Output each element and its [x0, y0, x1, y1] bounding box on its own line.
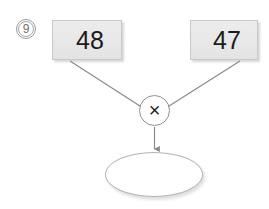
operator-symbol: × — [149, 100, 161, 120]
worksheet-problem-diagram: 9 48 47 × — [0, 0, 269, 209]
multiply-icon[interactable]: × — [139, 95, 170, 126]
problem-number-label: 9 — [16, 19, 36, 39]
operand-value-right: 47 — [207, 28, 241, 53]
operand-value-left: 48 — [70, 28, 104, 53]
operand-box-right[interactable]: 47 — [190, 20, 258, 60]
connector-right-to-operator — [168, 61, 241, 107]
connector-left-to-operator — [70, 61, 142, 107]
answer-value — [105, 152, 203, 197]
operand-box-left[interactable]: 48 — [52, 20, 122, 60]
problem-number-badge: 9 — [16, 19, 38, 41]
